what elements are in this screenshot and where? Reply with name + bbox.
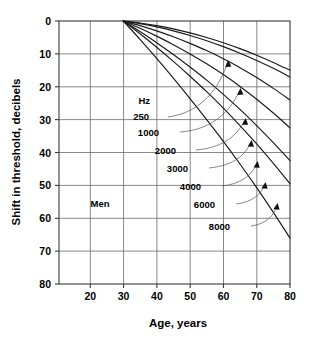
x-tick-label: 20 xyxy=(84,290,96,302)
y-tick-label: 80 xyxy=(39,278,51,290)
group-label-men: Men xyxy=(91,198,110,209)
chart-container: 0 10 20 30 40 50 60 70 80 20 30 40 50 60… xyxy=(0,0,311,339)
y-tick-label: 40 xyxy=(39,147,51,159)
y-axis-tick-labels: 0 10 20 30 40 50 60 70 80 xyxy=(39,15,51,290)
x-tick-label: 80 xyxy=(284,290,296,302)
series-label-2000: 2000 xyxy=(155,145,176,156)
y-tick-label: 20 xyxy=(39,81,51,93)
y-tick-label: 70 xyxy=(39,245,51,257)
x-tick-label: 60 xyxy=(218,290,230,302)
y-tick-label: 0 xyxy=(45,15,51,27)
y-axis-title: Shift in threshold, decibels xyxy=(10,79,22,226)
x-tick-label: 30 xyxy=(118,290,130,302)
y-tick-label: 30 xyxy=(39,114,51,126)
x-tick-label: 50 xyxy=(184,290,196,302)
y-tick-label: 10 xyxy=(39,48,51,60)
x-tick-label: 70 xyxy=(251,290,263,302)
presbycusis-chart: 0 10 20 30 40 50 60 70 80 20 30 40 50 60… xyxy=(0,0,311,339)
series-label-250: 250 xyxy=(133,111,149,122)
series-label-8000: 8000 xyxy=(209,221,230,232)
y-tick-label: 60 xyxy=(39,212,51,224)
legend-header-hz: Hz xyxy=(138,95,150,106)
x-axis-title: Age, years xyxy=(149,317,207,329)
series-label-6000: 6000 xyxy=(194,199,215,210)
series-label-3000: 3000 xyxy=(167,163,188,174)
series-label-1000: 1000 xyxy=(138,127,159,138)
x-tick-label: 40 xyxy=(151,290,163,302)
x-axis-tickmarks xyxy=(90,284,290,288)
y-tick-label: 50 xyxy=(39,179,51,191)
x-axis-tick-labels: 20 30 40 50 60 70 80 xyxy=(84,290,296,302)
series-label-4000: 4000 xyxy=(180,181,201,192)
y-axis-tickmarks xyxy=(55,21,59,284)
